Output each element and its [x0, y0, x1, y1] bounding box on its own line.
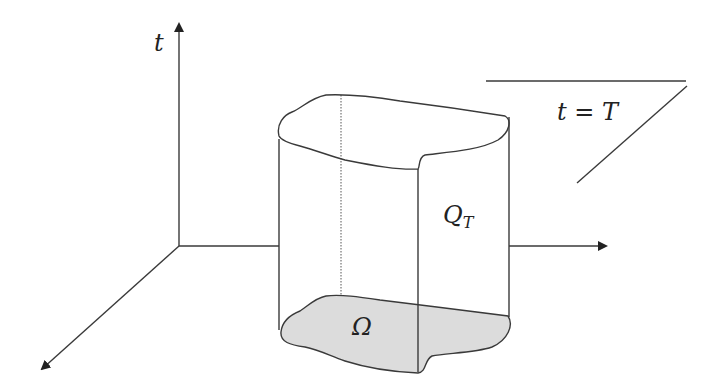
- cylinder-label: QT: [443, 201, 475, 232]
- top-plane-label: t = T: [557, 98, 620, 126]
- time-axis-label: t: [154, 29, 164, 57]
- cylinder-top-cap: [278, 95, 509, 169]
- space-time-cylinder-diagram: t t = T QT Ω: [0, 0, 726, 391]
- base-domain-omega: [281, 295, 510, 373]
- base-domain-label: Ω: [351, 313, 372, 341]
- cylinder-label-subscript: T: [463, 213, 475, 232]
- cylinder-label-main: Q: [443, 201, 463, 229]
- depth-axis: [42, 246, 179, 369]
